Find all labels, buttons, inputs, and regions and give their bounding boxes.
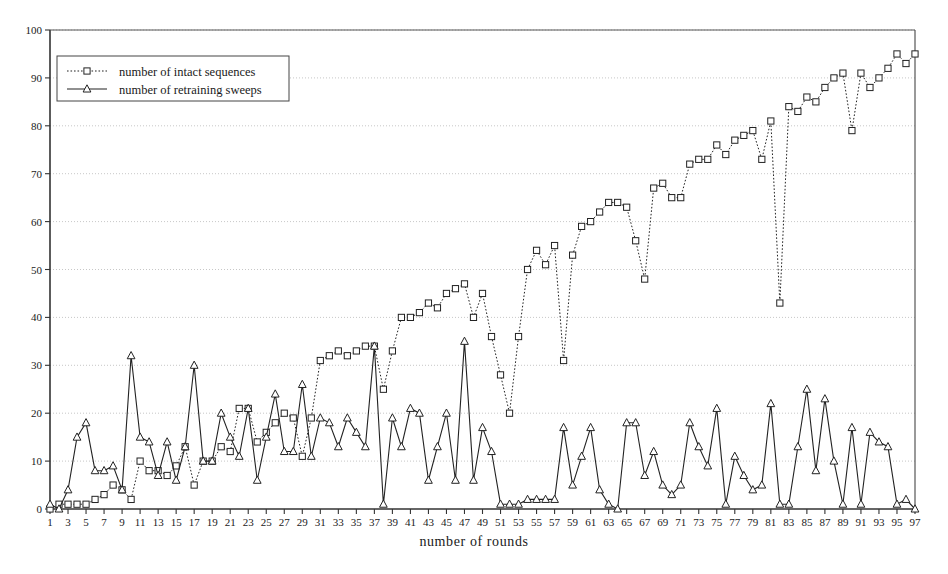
x-tick-label: 71 bbox=[675, 516, 686, 528]
y-tick-label: 70 bbox=[31, 168, 43, 180]
x-tick-label: 37 bbox=[369, 516, 381, 528]
data-point-square bbox=[398, 314, 404, 320]
x-tick-label: 39 bbox=[387, 516, 399, 528]
x-tick-label: 3 bbox=[65, 516, 71, 528]
x-axis-ticks: 1357911131517192123252729313335373941434… bbox=[47, 509, 921, 528]
data-point-square bbox=[813, 99, 819, 105]
data-point-square bbox=[488, 333, 494, 339]
data-point-square bbox=[660, 180, 666, 186]
y-tick-label: 40 bbox=[31, 311, 43, 323]
data-point-square bbox=[362, 343, 368, 349]
x-tick-label: 13 bbox=[153, 516, 165, 528]
x-tick-label: 67 bbox=[639, 516, 651, 528]
data-point-square bbox=[164, 472, 170, 478]
y-tick-label: 60 bbox=[31, 216, 43, 228]
data-point-square bbox=[579, 223, 585, 229]
data-point-square bbox=[786, 104, 792, 110]
x-tick-label: 73 bbox=[693, 516, 705, 528]
data-point-square bbox=[515, 333, 521, 339]
data-point-square bbox=[344, 353, 350, 359]
data-point-square bbox=[533, 247, 539, 253]
data-point-square bbox=[425, 300, 431, 306]
data-point-square bbox=[732, 137, 738, 143]
x-tick-label: 59 bbox=[567, 516, 579, 528]
x-tick-label: 89 bbox=[837, 516, 849, 528]
legend-label: number of intact sequences bbox=[119, 65, 256, 79]
x-tick-label: 93 bbox=[873, 516, 885, 528]
x-tick-label: 11 bbox=[135, 516, 146, 528]
data-point-square bbox=[560, 357, 566, 363]
data-point-square bbox=[74, 501, 80, 507]
data-point-square bbox=[407, 314, 413, 320]
data-point-square bbox=[506, 410, 512, 416]
data-point-square bbox=[651, 185, 657, 191]
data-point-square bbox=[858, 70, 864, 76]
data-point-square bbox=[101, 492, 107, 498]
data-point-square bbox=[723, 151, 729, 157]
data-point-square bbox=[254, 439, 260, 445]
data-point-square bbox=[317, 357, 323, 363]
x-tick-label: 43 bbox=[423, 516, 435, 528]
x-tick-label: 15 bbox=[171, 516, 183, 528]
data-point-square bbox=[92, 496, 98, 502]
data-point-square bbox=[173, 463, 179, 469]
y-tick-label: 30 bbox=[31, 359, 43, 371]
data-point-square bbox=[128, 496, 134, 502]
data-point-square bbox=[696, 156, 702, 162]
legend-label: number of retraining sweeps bbox=[119, 83, 262, 97]
data-point-square bbox=[416, 310, 422, 316]
data-point-square bbox=[912, 51, 918, 57]
data-point-square bbox=[741, 132, 747, 138]
data-point-square bbox=[272, 420, 278, 426]
data-point-square bbox=[822, 84, 828, 90]
data-point-square bbox=[687, 161, 693, 167]
x-tick-label: 25 bbox=[261, 516, 273, 528]
data-point-square bbox=[885, 65, 891, 71]
x-tick-label: 51 bbox=[495, 516, 506, 528]
x-tick-label: 23 bbox=[243, 516, 255, 528]
x-tick-label: 87 bbox=[819, 516, 831, 528]
data-point-square bbox=[876, 75, 882, 81]
data-point-square bbox=[497, 372, 503, 378]
data-point-square bbox=[65, 501, 71, 507]
x-tick-label: 65 bbox=[621, 516, 633, 528]
x-tick-label: 9 bbox=[119, 516, 125, 528]
x-axis-title: number of rounds bbox=[0, 534, 948, 550]
data-point-square bbox=[795, 108, 801, 114]
data-point-square bbox=[633, 238, 639, 244]
data-point-square bbox=[894, 51, 900, 57]
data-point-square bbox=[777, 300, 783, 306]
x-tick-label: 31 bbox=[315, 516, 326, 528]
x-tick-label: 85 bbox=[801, 516, 813, 528]
data-point-square bbox=[705, 156, 711, 162]
x-tick-label: 81 bbox=[765, 516, 776, 528]
data-point-square bbox=[606, 199, 612, 205]
data-point-square bbox=[669, 195, 675, 201]
data-point-square bbox=[570, 252, 576, 258]
data-point-square bbox=[434, 305, 440, 311]
data-point-square bbox=[326, 353, 332, 359]
data-point-square bbox=[84, 68, 90, 74]
y-tick-label: 80 bbox=[31, 120, 43, 132]
y-axis-ticks: 0102030405060708090100 bbox=[26, 24, 51, 515]
data-point-square bbox=[281, 410, 287, 416]
line-chart-plot: 0102030405060708090100135791113151719212… bbox=[0, 0, 948, 574]
x-tick-label: 69 bbox=[657, 516, 669, 528]
data-point-square bbox=[443, 290, 449, 296]
legend: number of intact sequencesnumber of retr… bbox=[57, 56, 289, 101]
x-tick-label: 17 bbox=[189, 516, 201, 528]
x-tick-label: 5 bbox=[83, 516, 89, 528]
data-point-square bbox=[642, 276, 648, 282]
y-tick-label: 90 bbox=[31, 72, 43, 84]
data-point-square bbox=[615, 199, 621, 205]
data-point-square bbox=[461, 281, 467, 287]
x-tick-label: 95 bbox=[891, 516, 903, 528]
x-tick-label: 63 bbox=[603, 516, 615, 528]
data-point-square bbox=[335, 348, 341, 354]
data-point-square bbox=[137, 458, 143, 464]
x-tick-label: 83 bbox=[783, 516, 795, 528]
data-point-square bbox=[146, 468, 152, 474]
data-point-square bbox=[867, 84, 873, 90]
data-point-square bbox=[110, 482, 116, 488]
data-point-square bbox=[470, 314, 476, 320]
